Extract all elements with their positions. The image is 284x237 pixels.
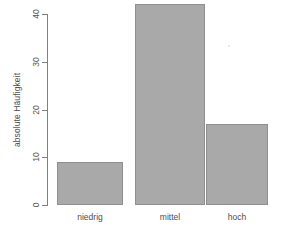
x-axis-label-hoch: hoch — [228, 213, 246, 222]
y-tick-label: 30 — [32, 57, 41, 66]
y-tick-mark — [42, 110, 47, 111]
plot-area: absolute Häufigkeit 010203040 niedrigmit… — [0, 0, 284, 237]
y-tick-mark — [42, 205, 47, 206]
y-tick-label: 10 — [32, 153, 41, 162]
y-tick-label: 0 — [32, 203, 41, 208]
y-axis-title: absolute Häufigkeit — [12, 73, 22, 147]
barplot-figure: absolute Häufigkeit 010203040 niedrigmit… — [0, 0, 284, 237]
y-tick-mark — [42, 157, 47, 158]
bar-niedrig — [57, 162, 123, 205]
y-axis-line — [47, 14, 48, 206]
y-tick-label: 40 — [32, 9, 41, 18]
bar-mittel — [135, 4, 205, 205]
x-axis-label-mittel: mittel — [160, 213, 180, 222]
y-tick-mark — [42, 62, 47, 63]
y-tick-mark — [42, 14, 47, 15]
x-axis-label-niedrig: niedrig — [77, 213, 103, 222]
image-speck-artifact — [228, 45, 230, 47]
bar-hoch — [206, 124, 268, 205]
y-tick-label: 20 — [32, 105, 41, 114]
